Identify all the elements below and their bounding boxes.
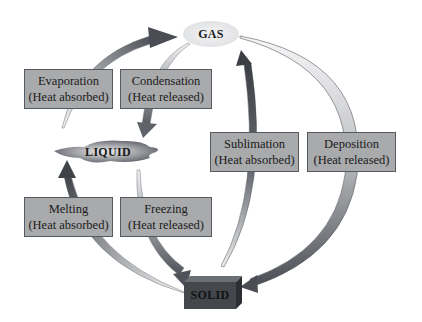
- evaporation-heat: (Heat absorbed): [25, 89, 112, 105]
- liquid-label: LIQUID: [80, 145, 136, 160]
- condensation-box: Condensation (Heat released): [120, 69, 212, 109]
- sublimation-label: Sublimation: [211, 136, 298, 152]
- condensation-label: Condensation: [121, 73, 211, 89]
- phase-change-diagram: GAS LIQUID SOLID Evaporation (Heat absor…: [0, 0, 422, 322]
- evaporation-label: Evaporation: [25, 73, 112, 89]
- gas-label: GAS: [191, 27, 231, 42]
- sublimation-box: Sublimation (Heat absorbed): [210, 132, 299, 172]
- deposition-box: Deposition (Heat released): [307, 132, 396, 172]
- sublimation-heat: (Heat absorbed): [211, 152, 298, 168]
- deposition-label: Deposition: [308, 136, 395, 152]
- freezing-heat: (Heat released): [121, 217, 211, 233]
- evaporation-box: Evaporation (Heat absorbed): [24, 69, 113, 109]
- melting-heat: (Heat absorbed): [25, 217, 112, 233]
- solid-label: SOLID: [184, 288, 236, 303]
- melting-label: Melting: [25, 201, 112, 217]
- freezing-label: Freezing: [121, 201, 211, 217]
- condensation-heat: (Heat released): [121, 89, 211, 105]
- deposition-heat: (Heat released): [308, 152, 395, 168]
- melting-box: Melting (Heat absorbed): [24, 197, 113, 237]
- freezing-box: Freezing (Heat released): [120, 197, 212, 237]
